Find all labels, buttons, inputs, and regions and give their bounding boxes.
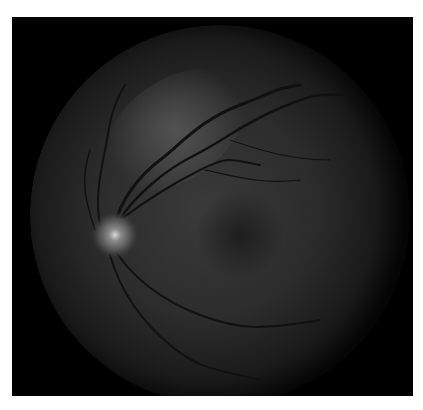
fundus-image-frame [12,17,413,396]
retina-fundus-image [12,17,413,396]
